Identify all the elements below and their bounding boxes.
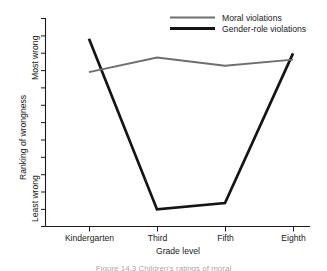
legend-label-gender-role-violations: Gender-role violations [222, 24, 306, 34]
y-axis-title: Ranking of wrongness [18, 95, 28, 180]
series-line-moral-violations [89, 58, 293, 73]
series-line-gender-role-violations [89, 39, 293, 210]
figure-chart: Moral violations Gender-role violations [0, 0, 327, 271]
line-chart-svg: Moral violations Gender-role violations [0, 0, 327, 271]
y-axis-ticks [41, 19, 46, 227]
chart-legend: Moral violations Gender-role violations [170, 13, 306, 34]
x-tick-label-third: Third [148, 233, 168, 243]
y-axis-top-label: Most wrong [30, 35, 40, 80]
x-tick-label-fifth: Fifth [217, 233, 234, 243]
legend-label-moral-violations: Moral violations [222, 13, 282, 23]
x-tick-label-eighth: Eighth [281, 233, 306, 243]
chart-axes [41, 18, 310, 232]
x-axis-title: Grade level [156, 246, 200, 256]
figure-caption: Figure 14.3 Children's ratings of moral [0, 263, 327, 271]
x-axis-ticks [90, 227, 294, 232]
x-tick-label-kindergarten: Kindergarten [65, 233, 114, 243]
y-axis-bottom-label: Least wrong [30, 175, 40, 222]
